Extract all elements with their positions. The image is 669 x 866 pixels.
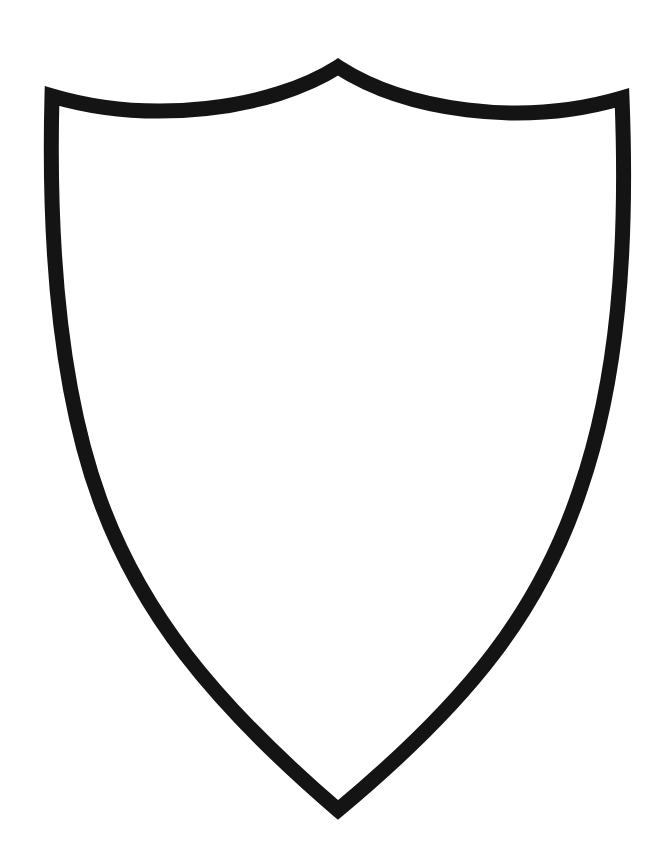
shield-outline bbox=[51, 67, 623, 810]
shield-icon bbox=[0, 0, 669, 866]
shield-canvas bbox=[0, 0, 669, 866]
